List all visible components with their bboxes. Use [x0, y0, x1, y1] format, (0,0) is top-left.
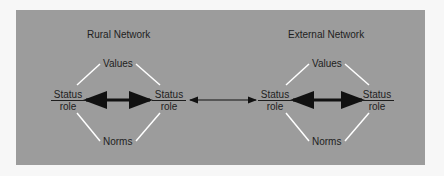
role-text: role: [161, 101, 178, 112]
status-text: Status: [360, 89, 394, 101]
connector-lines: [0, 0, 444, 176]
status-text: Status: [258, 89, 292, 101]
role-text: role: [267, 101, 284, 112]
rural-status-role-right: Status role: [152, 89, 186, 112]
external-status-role-left: Status role: [258, 89, 292, 112]
external-values-label: Values: [312, 58, 342, 69]
rural-values-label: Values: [103, 58, 133, 69]
rural-status-role-left: Status role: [51, 89, 85, 112]
role-text: role: [60, 101, 77, 112]
status-text: Status: [51, 89, 85, 101]
rural-network-title: Rural Network: [87, 29, 150, 40]
rural-norms-label: Norms: [103, 136, 132, 147]
external-norms-label: Norms: [312, 136, 341, 147]
external-network-title: External Network: [288, 29, 364, 40]
status-text: Status: [152, 89, 186, 101]
role-text: role: [369, 101, 386, 112]
external-status-role-right: Status role: [360, 89, 394, 112]
